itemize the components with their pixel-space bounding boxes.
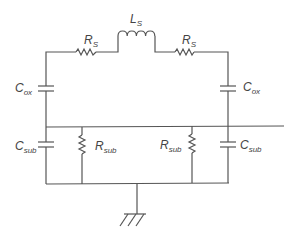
label-cox-left: Cox — [15, 81, 33, 97]
label-rs-right: RS — [182, 33, 197, 49]
resistor-rsub-left-icon — [79, 127, 85, 184]
ground-icon — [120, 184, 146, 226]
circuit-diagram: LS RS RS Cox Cox Csub Rsub Rsub Csub — [0, 0, 296, 239]
capacitor-csub-left-icon — [38, 127, 54, 184]
resistor-rsub-right-icon — [189, 126, 195, 183]
label-rs-left: RS — [84, 33, 99, 49]
resistor-rs-left-icon — [76, 49, 96, 55]
substrate-node-line — [46, 126, 284, 127]
label-cox-right: Cox — [243, 80, 261, 96]
capacitor-cox-right-icon — [220, 86, 236, 142]
resistor-rs-right-icon — [175, 49, 194, 55]
label-rsub-left: Rsub — [95, 139, 117, 155]
label-ls: LS — [130, 12, 143, 28]
capacitor-csub-right-icon — [220, 142, 236, 183]
series-path — [46, 31, 228, 86]
inductor-ls-icon — [118, 31, 155, 36]
label-csub-left: Csub — [15, 139, 37, 155]
label-csub-right: Csub — [240, 138, 262, 154]
capacitor-cox-left-icon — [38, 86, 54, 127]
label-rsub-right: Rsub — [160, 138, 182, 154]
bottom-node-line — [46, 183, 229, 184]
